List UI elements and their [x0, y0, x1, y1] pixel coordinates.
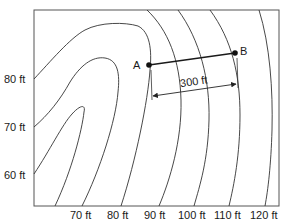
- point-a-label: A: [133, 59, 141, 71]
- x-label-110ft: 110 ft: [214, 209, 241, 221]
- contour-130ft: [259, 10, 272, 206]
- x-label-90ft: 90 ft: [144, 209, 165, 221]
- contour-90ft: [34, 23, 151, 206]
- contour-70ft: [34, 107, 84, 206]
- x-label-100ft: 100 ft: [178, 209, 206, 221]
- extension-line-a: [151, 70, 152, 100]
- contour-120ft: [210, 10, 240, 206]
- x-label-80ft: 80 ft: [107, 209, 128, 221]
- map-frame: [34, 10, 279, 206]
- y-label-70ft: 70 ft: [4, 121, 25, 133]
- y-label-60ft: 60 ft: [4, 169, 25, 181]
- x-label-70ft: 70 ft: [70, 209, 91, 221]
- contour-lines: [34, 10, 272, 206]
- ab-segment: [149, 53, 235, 65]
- point-b-label: B: [240, 45, 247, 57]
- y-label-80ft: 80 ft: [4, 73, 25, 85]
- point-a-marker: [146, 62, 152, 68]
- contour-110ft: [178, 10, 209, 206]
- dimension-label: 300 ft: [179, 73, 208, 89]
- contour-100ft: [147, 10, 181, 206]
- contour-map: A B 300 ft 80 ft 70 ft 60 ft 70 ft 80 ft…: [0, 0, 288, 224]
- x-label-120ft: 120 ft: [250, 209, 278, 221]
- contour-80ft: [34, 58, 119, 206]
- extension-line-b: [237, 58, 238, 88]
- point-b-marker: [232, 50, 238, 56]
